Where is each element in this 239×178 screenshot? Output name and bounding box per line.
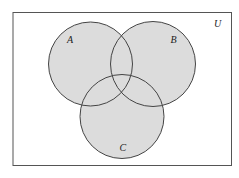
venn-diagram: A B C U xyxy=(0,0,239,178)
set-c-label: C xyxy=(120,142,127,153)
set-b-label: B xyxy=(171,34,177,45)
set-a-label: A xyxy=(66,34,74,45)
universe-label: U xyxy=(214,18,222,29)
